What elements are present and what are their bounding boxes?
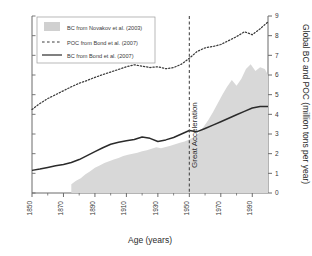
x-tick-label: 1850 xyxy=(26,201,33,216)
x-tick-label: 1970 xyxy=(215,201,222,216)
legend-label-bc-bond: BC from Bond et al. (2007) xyxy=(67,53,134,59)
great-acceleration-label: Great Acceleration xyxy=(190,102,199,168)
y-tick-label: 6 xyxy=(275,71,279,78)
x-axis-title: Age (years) xyxy=(128,235,172,245)
x-tick-label: 1870 xyxy=(57,201,64,216)
y-tick-label: 2 xyxy=(275,150,279,157)
y-tick-label: 0 xyxy=(275,189,279,196)
x-tick-label: 1910 xyxy=(120,201,127,216)
y-tick-label: 8 xyxy=(275,32,279,39)
y-axis-title: Global BC and POC (million tons per year… xyxy=(301,24,311,184)
series-area-novakov xyxy=(71,64,268,193)
chart-canvas: Great Acceleration 185018701890191019301… xyxy=(0,0,312,256)
y-tick-label: 5 xyxy=(275,91,279,98)
y-tick-label: 7 xyxy=(275,52,279,59)
legend-swatch-icon xyxy=(44,22,60,31)
x-tick-label: 1930 xyxy=(152,201,159,216)
y-tick-label: 9 xyxy=(275,12,279,19)
x-tick-label: 1950 xyxy=(183,201,190,216)
x-tick-label: 1890 xyxy=(89,201,96,216)
y-tick-label: 3 xyxy=(275,130,279,137)
y-tick-label: 4 xyxy=(275,111,279,118)
legend-label-novakov: BC from Novakov et al. (2003) xyxy=(67,25,142,31)
legend-label-poc-bond: POC from Bond et al. (2007) xyxy=(67,40,138,46)
chart-figure: Great Acceleration 185018701890191019301… xyxy=(0,0,312,256)
x-axis: 18501870189019101930195019701990 xyxy=(26,193,253,215)
y-tick-label: 1 xyxy=(275,170,279,177)
legend: BC from Novakov et al. (2003) POC from B… xyxy=(37,17,155,63)
great-acceleration-marker: Great Acceleration xyxy=(189,16,199,193)
x-tick-label: 1990 xyxy=(246,201,253,216)
